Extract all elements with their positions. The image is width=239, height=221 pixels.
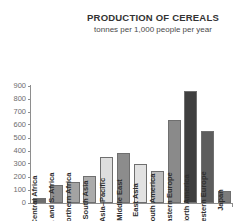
y-axis-tick: 700 <box>4 108 31 116</box>
y-axis-tick-label: 600 <box>4 121 28 129</box>
bar[interactable]: Japan <box>218 191 231 203</box>
bar-slot: Asia–Pacific <box>98 86 115 203</box>
bar-slot: Northern Africa <box>65 86 82 203</box>
bar[interactable]: Middle East <box>117 153 130 203</box>
bar-category-label: Western Europe <box>200 171 208 221</box>
cereal-production-chart: PRODUCTION OF CEREALS tonnes per 1,000 p… <box>0 0 239 221</box>
bar-slot: Japan <box>216 86 233 203</box>
bar[interactable]: South Asia <box>83 176 96 203</box>
bar[interactable]: Western Europe <box>201 131 214 203</box>
bar[interactable]: Northern Africa <box>67 182 80 203</box>
bar-slot: South America <box>149 86 166 203</box>
x-axis-line <box>30 203 233 204</box>
chart-subtitle: tonnes per 1,000 people per year <box>73 25 233 35</box>
bar-category-label: Asia–Pacific <box>99 178 107 221</box>
bar-category-label: North America <box>183 174 191 221</box>
bar[interactable]: Eastern Europe <box>168 120 181 203</box>
bar[interactable]: North America <box>184 91 197 203</box>
bar-slot: Middle East <box>115 86 132 203</box>
y-axis-tick: 200 <box>4 173 31 181</box>
bar-category-label: E. and S. Africa <box>48 173 56 221</box>
x-axis-end-tick <box>232 203 233 207</box>
bar-slot: Western Europe <box>199 86 216 203</box>
bar-category-label: South America <box>149 174 157 221</box>
y-axis-tick: 600 <box>4 121 31 129</box>
bar-category-label: East Asia <box>132 183 140 217</box>
y-axis-tick-label: 500 <box>4 134 28 142</box>
y-axis-tick: 900 <box>4 82 31 90</box>
bar-slot: E. and S. Africa <box>48 86 65 203</box>
bar-category-label: Central Africa <box>31 176 39 221</box>
bar[interactable]: Asia–Pacific <box>100 157 113 203</box>
y-axis-tick: 400 <box>4 147 31 155</box>
bar-slot: East Asia <box>132 86 149 203</box>
y-axis-tick-label: 0 <box>4 199 28 207</box>
bar[interactable]: Central Africa <box>33 198 46 203</box>
bar-category-label: Northern Africa <box>65 173 73 221</box>
bar-series: Central AfricaE. and S. AfricaNorthern A… <box>31 86 233 203</box>
y-axis-tick: 800 <box>4 95 31 103</box>
y-axis-tick-label: 400 <box>4 147 28 155</box>
bar-slot: North America <box>182 86 199 203</box>
y-axis-tick-label: 700 <box>4 108 28 116</box>
y-axis-tick-label: 200 <box>4 173 28 181</box>
bar-category-label: Eastern Europe <box>166 172 174 221</box>
chart-title-block: PRODUCTION OF CEREALS tonnes per 1,000 p… <box>73 12 233 35</box>
bar[interactable]: E. and S. Africa <box>50 185 63 203</box>
y-axis-tick-label: 100 <box>4 186 28 194</box>
y-axis-tick: 300 <box>4 160 31 168</box>
bar-category-label: Japan <box>217 189 225 211</box>
y-axis-tick: 0 <box>4 199 31 207</box>
y-axis-tick-label: 300 <box>4 160 28 168</box>
bar-slot: South Asia <box>81 86 98 203</box>
y-axis-tick-label: 900 <box>4 82 28 90</box>
bar-slot: Central Africa <box>31 86 48 203</box>
y-axis-tick: 100 <box>4 186 31 194</box>
bar[interactable]: East Asia <box>134 164 147 203</box>
bar-slot: Eastern Europe <box>166 86 183 203</box>
bar[interactable]: South America <box>151 171 164 204</box>
bar-category-label: South Asia <box>82 181 90 220</box>
y-axis-tick: 500 <box>4 134 31 142</box>
chart-title: PRODUCTION OF CEREALS <box>73 12 233 23</box>
y-axis-tick-label: 800 <box>4 95 28 103</box>
bar-category-label: Middle East <box>116 179 124 221</box>
